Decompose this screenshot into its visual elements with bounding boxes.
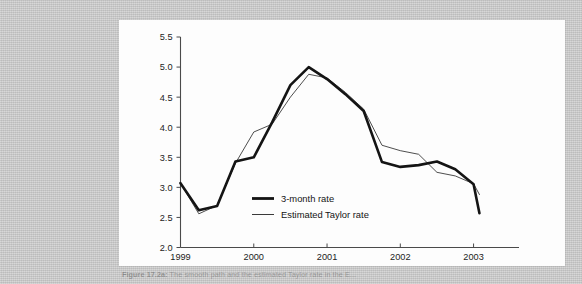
series-line-3-month-rate: [181, 67, 480, 213]
x-axis-ticks: 19992000200120022003: [170, 244, 484, 262]
legend-label-3-month-rate: 3-month rate: [281, 193, 334, 204]
figure-page: 2.02.53.03.54.04.55.05.5 199920002001200…: [119, 20, 565, 266]
y-tick-label: 4.5: [160, 93, 173, 103]
y-tick-label: 2.5: [160, 213, 173, 223]
y-tick-label: 5.0: [160, 62, 173, 72]
chart-series: [181, 67, 480, 214]
chart-legend: 3-month rate Estimated Taylor rate: [252, 193, 369, 220]
x-tick-label: 1999: [170, 252, 190, 262]
legend-label-estimated-taylor-rate: Estimated Taylor rate: [281, 209, 369, 220]
y-axis-ticks: 2.02.53.03.54.04.55.05.5: [160, 32, 181, 253]
x-tick-label: 2001: [317, 252, 337, 262]
x-tick-label: 2000: [244, 252, 264, 262]
y-tick-label: 3.0: [160, 183, 173, 193]
y-tick-label: 3.5: [160, 153, 173, 163]
figure-caption-text: The smooth path and the estimated Taylor…: [168, 270, 357, 279]
figure-caption-label: Figure 17.2a:: [122, 270, 168, 279]
x-tick-label: 2002: [390, 252, 410, 262]
y-tick-label: 5.5: [160, 32, 173, 42]
x-tick-label: 2003: [463, 252, 483, 262]
line-chart: 2.02.53.03.54.04.55.05.5 199920002001200…: [119, 20, 565, 266]
y-tick-label: 4.0: [160, 123, 173, 133]
figure-caption: Figure 17.2a: The smooth path and the es…: [122, 268, 577, 282]
